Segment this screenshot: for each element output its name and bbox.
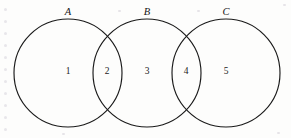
scan-speck [118, 10, 121, 12]
region-number-3: 3 [145, 67, 150, 77]
scan-speck [62, 133, 65, 135]
scan-speck [277, 132, 280, 134]
scan-speck [197, 10, 200, 12]
set-label-c: C [222, 7, 229, 18]
figure-canvas: A B C 1 2 3 4 5 [0, 0, 291, 138]
region-number-2: 2 [105, 67, 110, 77]
set-label-a: A [65, 7, 72, 18]
region-number-1: 1 [66, 67, 71, 77]
set-label-b: B [144, 7, 151, 18]
region-number-5: 5 [224, 67, 229, 77]
scan-speck [283, 4, 286, 6]
region-number-4: 4 [184, 67, 189, 77]
